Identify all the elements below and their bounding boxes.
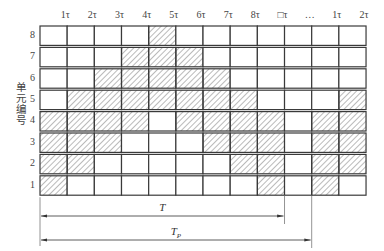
cell-busy: [40, 154, 67, 173]
cell-idle: [67, 26, 94, 45]
cell-busy: [149, 47, 176, 66]
cell-busy: [149, 69, 176, 88]
x-tick-label: 5τ: [169, 9, 178, 20]
cell-idle: [149, 154, 176, 173]
row-label: 2: [30, 157, 35, 168]
cell-busy: [312, 112, 339, 131]
x-tick-label: 1τ: [332, 9, 341, 20]
cell-busy: [94, 90, 121, 109]
x-tick-label: 2τ: [88, 9, 97, 20]
cell-idle: [230, 26, 257, 45]
cell-idle: [339, 26, 366, 45]
cell-busy: [149, 26, 176, 45]
x-tick-label: 6τ: [197, 9, 206, 20]
cell-idle: [203, 47, 230, 66]
cell-busy: [40, 176, 67, 195]
cell-busy: [67, 154, 94, 173]
cell-busy: [122, 90, 149, 109]
grid: [0, 0, 384, 251]
cell-idle: [285, 154, 312, 173]
cell-idle: [312, 90, 339, 109]
pipeline-timing-diagram: 876543211τ2τ3τ4τ5τ6τ7τ8τ□τ…1τ2τTTP 单元编号: [0, 0, 384, 251]
cell-idle: [312, 47, 339, 66]
cell-idle: [176, 176, 203, 195]
cell-busy: [230, 112, 257, 131]
cell-idle: [40, 26, 67, 45]
x-tick-label: 8τ: [251, 9, 260, 20]
cell-busy: [122, 69, 149, 88]
cell-busy: [67, 133, 94, 152]
cell-idle: [176, 133, 203, 152]
cell-idle: [339, 176, 366, 195]
row-label: 1: [30, 179, 35, 190]
cell-idle: [285, 176, 312, 195]
cell-busy: [203, 69, 230, 88]
interval-label: T: [159, 201, 165, 213]
interval-label: TP: [171, 225, 181, 240]
cell-busy: [312, 154, 339, 173]
cell-idle: [122, 133, 149, 152]
cell-busy: [230, 133, 257, 152]
cell-idle: [203, 26, 230, 45]
cell-idle: [257, 47, 284, 66]
x-tick-label: 2τ: [360, 9, 369, 20]
cell-idle: [285, 26, 312, 45]
cell-busy: [203, 133, 230, 152]
cell-busy: [176, 47, 203, 66]
cell-idle: [285, 69, 312, 88]
cell-idle: [94, 176, 121, 195]
cell-idle: [67, 47, 94, 66]
y-axis-label: 单元编号: [14, 82, 26, 126]
cell-idle: [94, 47, 121, 66]
cell-idle: [230, 176, 257, 195]
cell-idle: [122, 154, 149, 173]
cell-idle: [257, 90, 284, 109]
cell-busy: [339, 154, 366, 173]
cell-idle: [339, 47, 366, 66]
cell-idle: [285, 90, 312, 109]
cell-idle: [122, 26, 149, 45]
cell-busy: [94, 69, 121, 88]
cell-idle: [176, 26, 203, 45]
cell-idle: [67, 69, 94, 88]
cell-busy: [203, 112, 230, 131]
cell-idle: [203, 176, 230, 195]
cell-busy: [257, 154, 284, 173]
cell-busy: [176, 69, 203, 88]
cell-busy: [40, 133, 67, 152]
cell-busy: [94, 133, 121, 152]
cell-busy: [339, 90, 366, 109]
cell-idle: [312, 69, 339, 88]
cell-busy: [339, 133, 366, 152]
cell-busy: [257, 112, 284, 131]
row-label: 5: [30, 93, 35, 104]
row-label: 3: [30, 136, 35, 147]
cell-idle: [230, 47, 257, 66]
cell-busy: [176, 90, 203, 109]
cell-busy: [67, 90, 94, 109]
cell-busy: [94, 112, 121, 131]
cell-busy: [339, 112, 366, 131]
cell-idle: [312, 26, 339, 45]
cell-busy: [312, 176, 339, 195]
cell-idle: [40, 90, 67, 109]
cell-idle: [40, 69, 67, 88]
row-label: 4: [30, 114, 35, 125]
cell-idle: [257, 69, 284, 88]
cell-idle: [176, 154, 203, 173]
x-tick-label: …: [305, 9, 315, 20]
x-tick-label: 3τ: [115, 9, 124, 20]
x-tick-label: 7τ: [224, 9, 233, 20]
cell-busy: [122, 47, 149, 66]
cell-idle: [285, 47, 312, 66]
cell-idle: [149, 176, 176, 195]
row-label: 8: [30, 29, 35, 40]
cell-busy: [67, 112, 94, 131]
cell-idle: [149, 112, 176, 131]
x-tick-label: 1τ: [61, 9, 70, 20]
cell-idle: [230, 69, 257, 88]
row-label: 6: [30, 72, 35, 83]
cell-busy: [203, 90, 230, 109]
row-label: 7: [30, 50, 35, 61]
cell-idle: [285, 112, 312, 131]
